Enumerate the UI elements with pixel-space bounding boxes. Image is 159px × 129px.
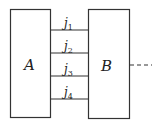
junction-diagram: A B j1 j2 j3 j4 <box>0 0 159 129</box>
box-b-label: B <box>100 57 112 75</box>
box-a-label: A <box>22 56 35 74</box>
